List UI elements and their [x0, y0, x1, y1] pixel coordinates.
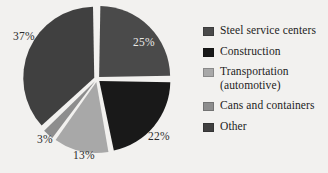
- pie-label-cans-and-containers: 3%: [37, 133, 53, 145]
- legend-item-other[interactable]: Other: [203, 120, 328, 134]
- legend-item-cans-and-containers[interactable]: Cans and containers: [203, 99, 328, 113]
- legend-item-construction[interactable]: Construction: [203, 45, 328, 59]
- pie-chart-figure: 37% 25% 22% 13% 3% Steel service centers…: [0, 0, 328, 173]
- legend-label-cans-and-containers: Cans and containers: [220, 99, 315, 113]
- legend-label-transportation-line2: (automotive): [220, 79, 289, 93]
- legend-swatch-icon-construction: [203, 48, 214, 57]
- legend-label-transportation-line1: Transportation: [220, 65, 289, 77]
- legend-swatch-icon-cans-and-containers: [203, 102, 214, 111]
- pie-label-other: 37%: [13, 30, 35, 42]
- pie-label-steel-service-centers: 25%: [133, 36, 155, 48]
- legend-label-other: Other: [220, 120, 247, 134]
- legend-swatch-icon-steel-service-centers: [203, 27, 214, 36]
- pie-label-transportation: 13%: [73, 149, 95, 161]
- pie-chart-svg: [0, 0, 190, 173]
- legend-swatch-icon-transportation: [203, 68, 214, 77]
- pie-chart-plot-area: 37% 25% 22% 13% 3%: [0, 0, 190, 173]
- legend-label-steel-service-centers: Steel service centers: [220, 24, 316, 38]
- chart-legend: Steel service centers Construction Trans…: [203, 24, 328, 140]
- pie-label-construction: 22%: [148, 130, 170, 142]
- legend-swatch-icon-other: [203, 123, 214, 132]
- legend-item-steel-service-centers[interactable]: Steel service centers: [203, 24, 328, 38]
- legend-item-transportation[interactable]: Transportation (automotive): [203, 65, 328, 92]
- legend-label-construction: Construction: [220, 45, 281, 59]
- legend-label-transportation: Transportation (automotive): [220, 65, 289, 92]
